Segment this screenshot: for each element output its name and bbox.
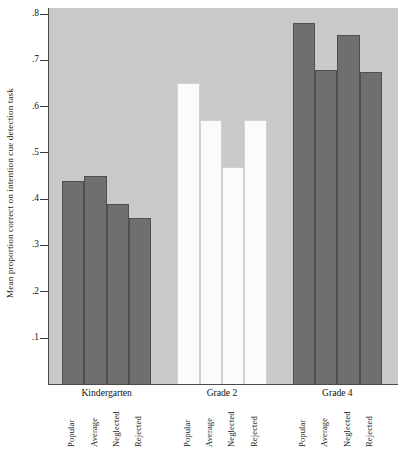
y-axis-tick-mark [40, 338, 48, 339]
x-axis-category-labels: PopularAverageNeglectedRejectedPopularAv… [48, 402, 398, 449]
y-axis-tick-mark [40, 199, 48, 200]
bar [315, 70, 337, 385]
x-axis-category-label-text: Popular [182, 420, 192, 447]
x-axis-group-label: Kindergarten [81, 387, 131, 398]
y-axis-title: Mean proportion correct on intention cue… [0, 0, 20, 385]
bar [62, 181, 84, 385]
x-axis-category-label-text: Average [319, 418, 329, 447]
x-axis-group-label: Grade 4 [322, 387, 353, 398]
y-axis-tick-mark [40, 245, 48, 246]
bar [200, 120, 222, 384]
x-axis-category-label-text: Average [89, 418, 99, 447]
x-axis-category-label-text: Neglected [226, 411, 236, 447]
bar [129, 218, 151, 385]
y-axis-tick-label: .1 [32, 332, 39, 343]
bar [293, 23, 315, 384]
x-axis-category-label-text: Popular [66, 420, 76, 447]
y-axis-tick-label: .3 [32, 239, 39, 250]
y-axis-tick-mark [40, 14, 48, 15]
y-axis-tick-label: .4 [32, 193, 39, 204]
y-axis-tick-label: .5 [32, 147, 39, 158]
x-axis-category-label-text: Neglected [342, 411, 352, 447]
y-axis-tick-mark [40, 60, 48, 61]
bar-chart-figure: Mean proportion correct on intention cue… [0, 0, 403, 449]
x-axis-category-label-text: Rejected [133, 416, 143, 447]
y-axis-tick-mark [40, 291, 48, 292]
y-axis-tick-label: .6 [32, 101, 39, 112]
bar [177, 83, 199, 384]
bar [337, 35, 359, 384]
x-axis-category-label-text: Rejected [364, 416, 374, 447]
plot-area [48, 8, 398, 385]
y-axis-tick-label: .7 [32, 54, 39, 65]
y-axis-tick-label: .2 [32, 286, 39, 297]
bar [107, 204, 129, 385]
y-axis-tick-mark [40, 152, 48, 153]
x-axis-group-labels: KindergartenGrade 2Grade 4 [48, 386, 398, 402]
y-axis-title-text: Mean proportion correct on intention cue… [5, 88, 15, 298]
bar [222, 167, 244, 385]
y-axis-ticks: .8.7.6.5.4.3.2.1 [18, 0, 48, 385]
x-axis-group-label: Grade 2 [207, 387, 238, 398]
x-axis-category-label-text: Neglected [111, 411, 121, 447]
y-axis-tick-mark [40, 106, 48, 107]
x-axis-category-label-text: Popular [297, 420, 307, 447]
x-axis-category-label-text: Average [204, 418, 214, 447]
x-axis-category-label-text: Rejected [249, 416, 259, 447]
bar [360, 72, 382, 384]
bar [244, 120, 266, 384]
bar [84, 176, 106, 384]
y-axis-tick-label: .8 [32, 8, 39, 19]
